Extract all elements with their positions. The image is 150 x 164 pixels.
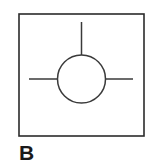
figure-label: B [19, 141, 34, 164]
diagram-svg: B [0, 0, 150, 164]
figure-container: B [0, 0, 150, 164]
